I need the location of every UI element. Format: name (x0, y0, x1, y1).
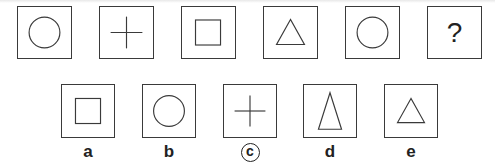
sequence-cell-4 (263, 6, 318, 59)
cross-icon (100, 7, 153, 58)
sequence-cell-1 (17, 6, 72, 59)
option-d-box[interactable] (303, 84, 357, 138)
triangle-icon (264, 7, 317, 58)
question-mark: ? (428, 7, 481, 58)
circle-icon (143, 85, 195, 137)
sequence-cell-3 (181, 6, 236, 59)
sequence-cell-5 (345, 6, 400, 59)
option-b-box[interactable] (142, 84, 196, 138)
sequence-cell-2 (99, 6, 154, 59)
circle-icon (346, 7, 399, 58)
triangle-icon (385, 85, 437, 137)
square-icon (182, 7, 235, 58)
option-e-label: e (384, 143, 438, 161)
option-e-box[interactable] (384, 84, 438, 138)
option-b-label: b (142, 143, 196, 161)
tall-triangle-icon (304, 85, 356, 137)
option-d-label: d (303, 143, 357, 161)
sequence-cell-unknown: ? (427, 6, 482, 59)
circle-icon (18, 7, 71, 58)
top-edge-shadow (0, 0, 495, 3)
square-icon (62, 85, 114, 137)
selected-answer-circle: c (241, 143, 260, 162)
option-a-label: a (61, 143, 115, 161)
option-a-box[interactable] (61, 84, 115, 138)
option-c-box[interactable] (223, 84, 277, 138)
option-c-label: c (223, 142, 277, 162)
cross-icon (224, 85, 276, 137)
